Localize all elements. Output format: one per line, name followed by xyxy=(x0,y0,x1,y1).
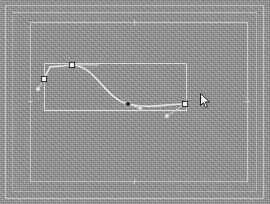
anchor-mid[interactable] xyxy=(125,101,132,108)
control-point-3[interactable] xyxy=(165,114,169,118)
control-point-group[interactable] xyxy=(36,87,169,118)
bezier-path[interactable] xyxy=(44,65,185,106)
anchor-end[interactable] xyxy=(182,101,187,106)
anchor-top[interactable] xyxy=(69,62,74,67)
control-point-2[interactable] xyxy=(138,106,142,110)
vector-layer[interactable] xyxy=(0,0,270,204)
anchor-point-group[interactable] xyxy=(41,62,187,107)
anchor-start[interactable] xyxy=(41,76,46,81)
editor-canvas[interactable] xyxy=(0,0,270,204)
pointer-cursor xyxy=(200,93,211,109)
control-handle-lines xyxy=(38,65,185,116)
control-point-1[interactable] xyxy=(36,87,40,91)
